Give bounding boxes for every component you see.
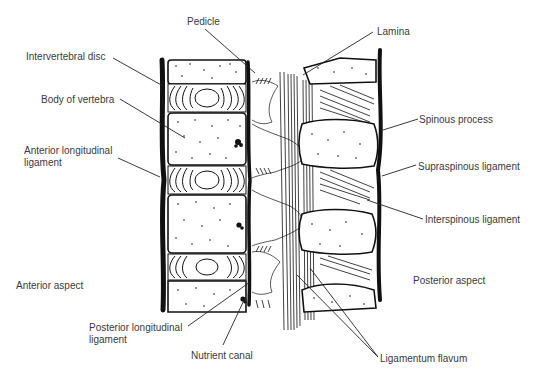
label-nutrient-canal: Nutrient canal (191, 350, 253, 361)
label-lamina: Lamina (377, 26, 410, 37)
interspinous-ligament-hatch-1 (320, 85, 374, 124)
leader-intervertebral-disc (113, 58, 163, 86)
label-interspinous-ligament: Interspinous ligament (425, 214, 520, 225)
label-pedicle: Pedicle (187, 16, 220, 27)
label-intervertebral-disc: Intervertebral disc (26, 51, 105, 62)
vertebral-body-2 (168, 113, 246, 165)
spinous-processes-column (299, 50, 381, 312)
vertebral-bodies-column (162, 60, 250, 312)
label-body-of-vertebra: Body of vertebra (41, 94, 115, 105)
label-posterior-longitudinal-ligament: Posterior longitudinalligament (89, 322, 182, 345)
labels: PedicleLaminaIntervertebral discBody of … (24, 16, 520, 364)
leader-interspinous-ligament (367, 200, 423, 219)
vertebral-column-diagram: PedicleLaminaIntervertebral discBody of … (0, 0, 538, 378)
posterior-aspect-label: Posterior aspect (413, 275, 485, 286)
intervertebral-disc-1 (168, 84, 246, 112)
spinous-process-lower (299, 210, 376, 255)
leader-supraspinous-ligament (382, 165, 416, 176)
leader-ligamentum-flavum (310, 268, 378, 357)
intervertebral-disc-3 (168, 254, 246, 280)
leader-anterior-longitudinal-ligament (118, 158, 160, 177)
posterior-longitudinal-ligament-shape (248, 62, 250, 305)
leader-spinous-process (383, 119, 418, 130)
vertebral-body-3 (168, 195, 246, 253)
spinous-process-middle (299, 120, 378, 169)
anterior-aspect-label: Anterior aspect (16, 280, 83, 291)
label-ligamentum-flavum: Ligamentum flavum (380, 353, 467, 364)
label-anterior-longitudinal-ligament: Anterior longitudinalligament (24, 145, 112, 168)
interspinous-ligament-hatch-2 (320, 170, 374, 204)
spinous-process-bottom (302, 284, 376, 312)
spinous-process-top (304, 58, 376, 84)
intervertebral-disc-2 (168, 166, 246, 194)
anterior-longitudinal-ligament-shape (162, 60, 164, 310)
interspinous-ligament-hatch-3 (320, 256, 372, 280)
label-spinous-process: Spinous process (419, 114, 493, 125)
supraspinous-ligament-shape (378, 50, 381, 300)
label-supraspinous-ligament: Supraspinous ligament (418, 161, 520, 172)
vertebral-body-top (168, 60, 246, 84)
vertebral-body-bottom (168, 281, 246, 312)
